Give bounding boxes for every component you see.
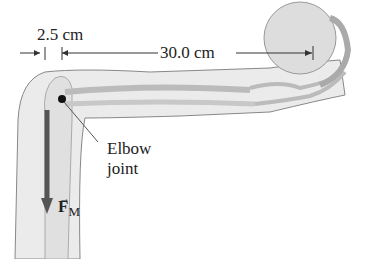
dimension-label-long: 30.0 cm: [160, 44, 215, 62]
force-label: → FM: [58, 198, 80, 221]
dimension-label-short: 2.5 cm: [37, 26, 83, 44]
arm-diagram: 2.5 cm 30.0 cm Elbow joint → FM: [0, 0, 367, 259]
force-vector-arrow-icon: →: [59, 189, 70, 207]
elbow-joint-label-line2: joint: [107, 160, 138, 178]
force-subscript: M: [68, 204, 80, 219]
elbow-joint-label-line1: Elbow: [107, 140, 151, 158]
